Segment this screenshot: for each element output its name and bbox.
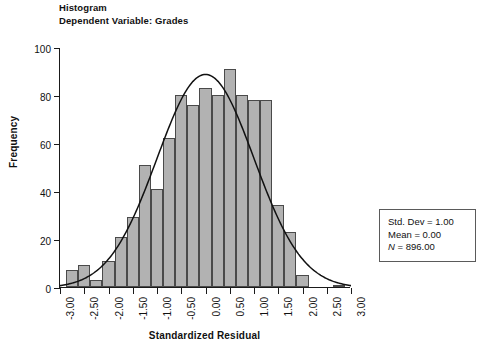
stat-mean: Mean = 0.00 <box>388 229 467 242</box>
x-axis-label: Standardized Residual <box>59 330 350 341</box>
x-axis-tick: 0.00 <box>206 288 207 294</box>
x-axis-tick-label: -1.50 <box>138 297 149 320</box>
x-axis-tick-label: 1.50 <box>283 297 294 316</box>
y-axis-tick: 80 <box>54 96 60 97</box>
x-axis-tick-label: 2.50 <box>332 297 343 316</box>
x-axis-tick-label: -1.00 <box>162 297 173 320</box>
x-axis-tick-label: 0.00 <box>211 297 222 316</box>
x-axis-tick: -0.50 <box>181 288 182 294</box>
y-axis-tick-label: 0 <box>45 284 51 295</box>
x-axis-tick: -1.00 <box>157 288 158 294</box>
x-axis-tick-label: 1.00 <box>259 297 270 316</box>
histogram-figure: Histogram Dependent Variable: Grades Fre… <box>0 0 492 355</box>
x-axis-tick: 2.50 <box>327 288 328 294</box>
y-axis-tick: 60 <box>54 144 60 145</box>
stat-n-symbol: N <box>388 241 395 252</box>
y-axis-tick-label: 100 <box>34 44 51 55</box>
x-axis-tick-label: -3.00 <box>65 297 76 320</box>
y-axis-tick: 40 <box>54 192 60 193</box>
title-line-1: Histogram <box>59 2 188 15</box>
x-axis-tick: -1.50 <box>133 288 134 294</box>
x-axis-tick-label: -0.50 <box>186 297 197 320</box>
stat-n: N = 896.00 <box>388 241 467 254</box>
title-line-2: Dependent Variable: Grades <box>59 15 188 28</box>
y-axis-tick-label: 20 <box>40 236 51 247</box>
x-axis-tick: 2.00 <box>303 288 304 294</box>
x-axis-tick-label: 3.00 <box>356 297 367 316</box>
x-axis-tick-label: -2.00 <box>114 297 125 320</box>
stat-n-value: = 896.00 <box>395 241 435 252</box>
y-axis-tick-label: 60 <box>40 140 51 151</box>
x-axis-tick-label: -2.50 <box>89 297 100 320</box>
x-axis-tick-label: 0.50 <box>235 297 246 316</box>
y-axis-label: Frequency <box>8 116 19 168</box>
x-axis-tick: 3.00 <box>351 288 352 294</box>
normal-curve-path <box>60 74 351 286</box>
x-axis-tick: 1.00 <box>254 288 255 294</box>
statistics-box: Std. Dev = 1.00 Mean = 0.00 N = 896.00 <box>379 209 476 262</box>
x-axis-tick: 1.50 <box>278 288 279 294</box>
normal-curve-overlay <box>60 48 350 287</box>
y-axis-tick: 100 <box>54 48 60 49</box>
y-axis-tick-label: 80 <box>40 92 51 103</box>
normal-curve-svg <box>60 48 351 288</box>
y-axis-tick-label: 40 <box>40 188 51 199</box>
plot-area: 020406080100 -3.00-2.50-2.00-1.50-1.00-0… <box>59 48 350 288</box>
chart-title: Histogram Dependent Variable: Grades <box>59 2 188 27</box>
x-axis-tick: -2.50 <box>84 288 85 294</box>
x-axis-tick: 0.50 <box>230 288 231 294</box>
x-axis-tick-label: 2.00 <box>308 297 319 316</box>
y-axis-tick: 20 <box>54 240 60 241</box>
x-axis-tick: -3.00 <box>60 288 61 294</box>
x-axis-tick: -2.00 <box>109 288 110 294</box>
stat-std-dev: Std. Dev = 1.00 <box>388 216 467 229</box>
